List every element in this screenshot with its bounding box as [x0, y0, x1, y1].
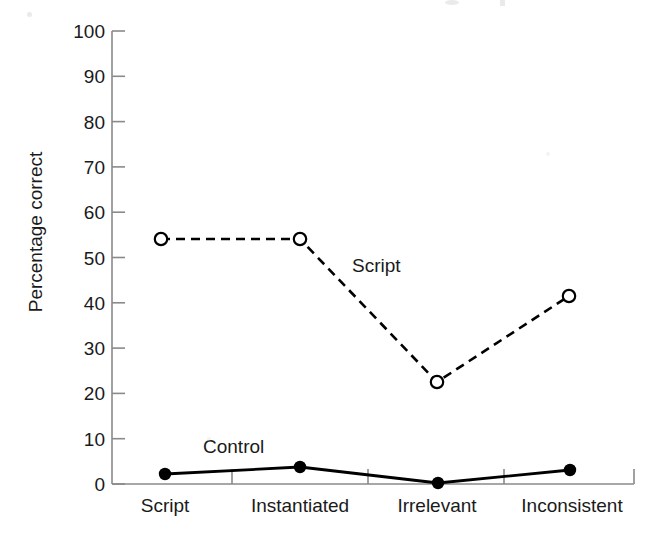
series-control-point-instantiated	[294, 461, 306, 473]
x-tick-label-inconsistent: Inconsistent	[521, 495, 623, 516]
scan-artifact-mid-2	[546, 152, 550, 156]
scan-artifact-mid	[207, 437, 211, 441]
y-tick-label-30: 30	[84, 338, 105, 359]
y-tick-label-100: 100	[73, 21, 105, 42]
scan-artifact-top-right-2	[500, 0, 505, 6]
y-axis-title: Percentage correct	[25, 151, 46, 312]
x-tick-label-irrelevant: Irrelevant	[397, 495, 477, 516]
series-script-point-instantiated	[294, 233, 306, 245]
y-axis: 100 90 80 70 60 50 40 30 20 10 0 Percent…	[25, 21, 125, 495]
series-control-point-inconsistent	[564, 464, 576, 476]
y-tick-label-10: 10	[84, 429, 105, 450]
chart-figure: 100 90 80 70 60 50 40 30 20 10 0 Percent…	[0, 0, 659, 537]
y-tick-label-80: 80	[84, 112, 105, 133]
y-tick-label-50: 50	[84, 248, 105, 269]
scan-artifact-top-right	[445, 0, 459, 5]
series-control-point-script	[159, 468, 171, 480]
series-label-control: Control	[203, 436, 264, 457]
x-tick-label-script: Script	[141, 495, 190, 516]
line-chart-svg: 100 90 80 70 60 50 40 30 20 10 0 Percent…	[0, 0, 659, 537]
y-tick-label-70: 70	[84, 157, 105, 178]
y-tick-label-60: 60	[84, 202, 105, 223]
y-tick-label-40: 40	[84, 293, 105, 314]
scan-artifact-top-left	[27, 12, 32, 17]
series-script-point-script	[155, 233, 167, 245]
y-tick-label-90: 90	[84, 66, 105, 87]
series-label-script: Script	[352, 255, 401, 276]
series-script: Script	[155, 233, 575, 388]
series-script-point-inconsistent	[563, 290, 575, 302]
y-tick-label-0: 0	[94, 474, 105, 495]
x-tick-label-instantiated: Instantiated	[251, 495, 349, 516]
y-tick-label-20: 20	[84, 383, 105, 404]
series-script-point-irrelevant	[431, 376, 443, 388]
series-control-point-irrelevant	[432, 477, 444, 489]
